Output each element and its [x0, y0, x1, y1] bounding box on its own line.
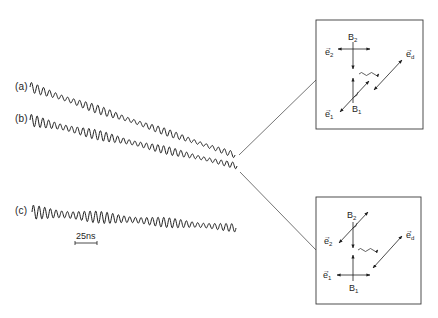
label-b1-top: B1	[352, 104, 361, 117]
connector-line-2	[240, 172, 316, 250]
vector-arrow-icon: →	[325, 43, 332, 53]
scale-bar-label: 25ns	[76, 231, 96, 241]
vector-arrow-icon: →	[324, 232, 331, 242]
diagram-box-bottom	[316, 197, 421, 304]
trace-label-a: (a)	[15, 82, 28, 92]
label-e1-bottom: →e1	[323, 270, 331, 283]
photon-wavy-arrow	[359, 73, 379, 76]
figure-canvas	[0, 0, 438, 318]
connector-line-1	[239, 80, 316, 155]
label-b2-bottom: B2	[347, 210, 356, 223]
trace-c-waveform	[32, 205, 236, 232]
vector-arrow-icon: →	[406, 226, 413, 236]
ed-double-arrow	[373, 236, 402, 268]
connector-lines	[239, 80, 316, 250]
oscillation-traces	[30, 83, 237, 232]
vector-arrow-icon: →	[325, 105, 332, 115]
label-ed-top: →ed	[406, 49, 414, 62]
trace-a-waveform	[30, 83, 235, 158]
trace-label-c: (c)	[15, 206, 27, 216]
label-ed-bottom: →ed	[406, 230, 414, 243]
trace-label-b: (b)	[15, 114, 28, 124]
label-b1-bottom: B1	[349, 283, 358, 296]
trace-b-waveform	[30, 114, 237, 168]
label-e2-bottom: →e2	[324, 236, 332, 249]
photon-wavy-arrow	[358, 249, 378, 252]
scale-bar	[75, 241, 97, 245]
box-frame	[316, 197, 421, 304]
label-e2-top: →e2	[325, 47, 333, 60]
vector-arrow-icon: →	[406, 45, 413, 55]
label-e1-top: →e1	[325, 109, 333, 122]
vector-arrow-icon: →	[323, 266, 330, 276]
label-b2-top: B2	[348, 32, 357, 45]
